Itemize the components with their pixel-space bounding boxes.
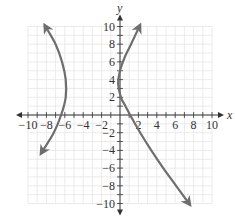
axes	[16, 15, 224, 216]
x-tick-label: −10	[19, 118, 38, 132]
y-tick-label: 10	[103, 20, 115, 34]
x-tick-label: −4	[77, 118, 90, 132]
y-tick-label: 6	[109, 55, 115, 69]
x-tick-label: −8	[40, 118, 53, 132]
x-tick-label: 6	[172, 118, 178, 132]
y-axis-arrow-down-icon	[117, 210, 123, 216]
x-axis-arrow-right-icon	[218, 112, 224, 118]
y-tick-label: −6	[102, 161, 115, 175]
y-tick-label: −8	[102, 179, 115, 193]
y-axis-label: y	[116, 1, 123, 15]
y-axis-arrow-up-icon	[117, 15, 123, 21]
x-tick-label: 10	[206, 118, 218, 132]
x-tick-label: 4	[154, 118, 160, 132]
y-tick-label: −4	[102, 143, 115, 157]
y-tick-label: −10	[96, 197, 115, 211]
x-tick-label: 8	[191, 118, 197, 132]
y-tick-label: 2	[109, 90, 115, 104]
y-tick-label: 4	[109, 73, 115, 87]
left-curve	[42, 27, 66, 153]
coordinate-plane: −10−8−6−4−2246810−10−8−6−4−2246810 x y	[0, 0, 235, 220]
x-axis-label: x	[226, 108, 233, 122]
y-tick-label: 8	[109, 37, 115, 51]
y-tick-label: −2	[102, 126, 115, 140]
